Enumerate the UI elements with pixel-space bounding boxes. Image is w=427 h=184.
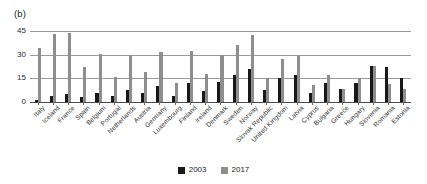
bar-group	[182, 31, 197, 102]
bar	[251, 35, 254, 102]
bar	[220, 55, 223, 102]
bar-group	[243, 31, 258, 102]
bar-group	[228, 31, 243, 102]
bar	[144, 72, 147, 102]
bar	[358, 78, 361, 102]
bar-group	[396, 31, 411, 102]
bar	[190, 51, 193, 102]
y-axis-tick-label: 0	[4, 98, 26, 106]
bar	[38, 48, 41, 102]
bar-group	[152, 31, 167, 102]
legend-label: 2003	[189, 166, 207, 174]
bar	[281, 59, 284, 102]
bar	[236, 45, 239, 102]
legend-item: 2017	[221, 166, 250, 174]
plot-area	[30, 31, 411, 102]
bar-group	[380, 31, 395, 102]
chart-figure: (b) 4530150 ItalyIcelandFranceSpainBelgi…	[0, 0, 427, 184]
bar	[327, 75, 330, 102]
y-axis-tick-label: 45	[4, 27, 26, 35]
bar	[297, 56, 300, 102]
bar	[205, 74, 208, 102]
bar	[68, 33, 71, 102]
bar-group	[289, 31, 304, 102]
y-axis-tick-labels: 4530150	[0, 31, 26, 102]
bar	[159, 52, 162, 102]
bar-group	[213, 31, 228, 102]
bar-group	[198, 31, 213, 102]
bar-group	[335, 31, 350, 102]
bar	[266, 78, 269, 102]
bar-group	[319, 31, 334, 102]
bar	[403, 89, 406, 102]
legend-swatch-icon	[178, 167, 185, 174]
bar-group	[350, 31, 365, 102]
bar-group	[304, 31, 319, 102]
bar	[373, 66, 376, 102]
panel-label: (b)	[14, 8, 26, 19]
bar-group	[60, 31, 75, 102]
bar	[83, 67, 86, 103]
bar	[175, 83, 178, 102]
bar	[312, 85, 315, 102]
bar-groups	[30, 31, 411, 102]
bar	[342, 89, 345, 102]
bar-group	[167, 31, 182, 102]
legend-swatch-icon	[221, 167, 228, 174]
bar	[388, 84, 391, 102]
bar-group	[137, 31, 152, 102]
bar-group	[365, 31, 380, 102]
bar-group	[91, 31, 106, 102]
y-axis-tick-label: 15	[4, 74, 26, 82]
bar-group	[30, 31, 45, 102]
bar-group	[259, 31, 274, 102]
legend: 20032017	[0, 166, 427, 174]
y-axis-tick-label: 30	[4, 51, 26, 59]
bar	[99, 54, 102, 102]
bar	[129, 55, 132, 102]
x-axis-category-labels: ItalyIcelandFranceSpainBelgiumPortugalNe…	[30, 104, 411, 160]
bar-group	[121, 31, 136, 102]
bar-group	[45, 31, 60, 102]
bar-group	[106, 31, 121, 102]
bar	[114, 77, 117, 102]
bar	[53, 34, 56, 102]
bar-group	[274, 31, 289, 102]
bar-group	[76, 31, 91, 102]
legend-item: 2003	[178, 166, 207, 174]
legend-label: 2017	[232, 166, 250, 174]
